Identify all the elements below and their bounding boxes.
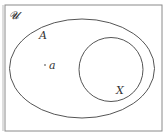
universe-frame bbox=[5, 5, 162, 131]
set-x-label: X bbox=[115, 84, 125, 97]
element-point bbox=[44, 64, 46, 66]
venn-diagram: 𝓤 A a X bbox=[0, 0, 166, 136]
set-a-label: A bbox=[38, 29, 47, 42]
element-label: a bbox=[49, 59, 56, 72]
